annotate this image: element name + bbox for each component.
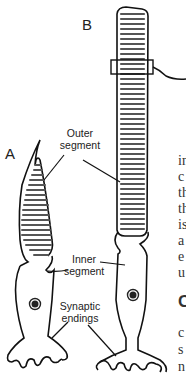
outer-segment-leader-cone [44, 155, 64, 180]
photoreceptor-figure: B A Outer segment Inner segment Synaptic… [0, 0, 186, 373]
rod-nucleus-core [130, 292, 137, 299]
connector-line [153, 67, 186, 79]
outer-segment-label: Outer segment [56, 127, 104, 151]
synaptic-endings-label: Synaptic endings [56, 300, 104, 324]
panel-label-a: A [5, 145, 15, 162]
rod-outer-segment [117, 7, 148, 236]
cone-outer-segment [19, 140, 52, 266]
section-heading-fragment: C [178, 292, 186, 312]
rod-inner-segment [96, 232, 166, 372]
outer-segment-leader-rod [83, 160, 120, 182]
inner-segment-label: Inner segment [64, 253, 104, 277]
synaptic-leader-cone [52, 322, 68, 338]
cone-nucleus-core [32, 301, 39, 308]
cone-synaptic-endings [12, 357, 62, 368]
synaptic-leader-rod [88, 325, 116, 356]
panel-label-b: B [82, 16, 92, 33]
rod-synaptic-endings [100, 361, 161, 372]
